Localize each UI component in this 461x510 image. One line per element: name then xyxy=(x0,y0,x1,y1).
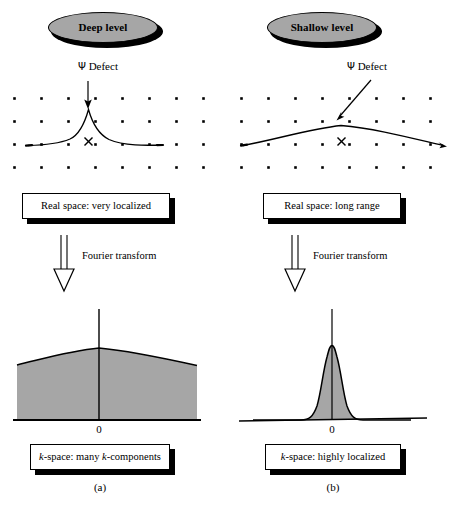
psi-glyph: Ψ xyxy=(347,61,355,72)
panel-shallow-level: Shallow level Ψ Defect xyxy=(231,0,461,510)
deep-fourier-arrow-icon xyxy=(47,235,87,293)
shallow-lattice-dots xyxy=(240,97,432,169)
shallow-real-space-box: Real space: long range xyxy=(263,193,401,219)
deep-lattice-dots xyxy=(13,97,205,169)
subcaption-a: (a) xyxy=(80,481,120,493)
deep-lattice-diagram xyxy=(0,78,230,178)
shallow-kspace-plot xyxy=(231,305,461,435)
deep-real-space-box-label: Real space: very localized xyxy=(22,193,170,219)
deep-kspace-zero-label: 0 xyxy=(89,423,109,435)
kspace-text-mid: -space: highly localized xyxy=(285,451,385,462)
kspace-text-mid: -space: many xyxy=(44,451,102,462)
deep-real-space-box: Real space: very localized xyxy=(22,193,170,219)
figure-root: Deep level Ψ Defect xyxy=(0,0,461,510)
shallow-kspace-box: k-space: highly localized xyxy=(265,444,401,470)
shallow-level-badge: Shallow level xyxy=(267,12,379,45)
shallow-defect-label: Ψ Defect xyxy=(347,60,387,72)
panel-deep-level: Deep level Ψ Defect xyxy=(0,0,230,510)
deep-kspace-box: k-space: many k-components xyxy=(30,444,170,470)
defect-text: Defect xyxy=(86,60,118,72)
defect-text: Defect xyxy=(355,60,387,72)
shallow-level-badge-label: Shallow level xyxy=(267,12,377,43)
kspace-text-suffix: -components xyxy=(107,451,161,462)
deep-wavefunction-curve xyxy=(28,110,162,146)
shallow-fourier-arrow-icon xyxy=(278,235,318,293)
shallow-defect-arrow xyxy=(337,80,372,121)
shallow-real-space-box-label: Real space: long range xyxy=(263,193,401,219)
subcaption-b: (b) xyxy=(313,481,353,493)
deep-level-badge-label: Deep level xyxy=(48,12,158,43)
shallow-defect-cross xyxy=(338,138,346,146)
shallow-fourier-transform-label: Fourier transform xyxy=(313,250,387,261)
shallow-curve-left-tail xyxy=(241,145,247,146)
shallow-kspace-box-label: k-space: highly localized xyxy=(265,444,401,470)
shallow-lattice-diagram xyxy=(231,78,461,178)
deep-defect-cross xyxy=(85,138,93,146)
deep-fourier-transform-label: Fourier transform xyxy=(82,250,156,261)
deep-defect-label: Ψ Defect xyxy=(78,60,118,72)
shallow-kspace-zero-label: 0 xyxy=(322,423,342,435)
deep-kspace-plot xyxy=(0,305,230,435)
psi-glyph: Ψ xyxy=(78,61,86,72)
deep-level-badge: Deep level xyxy=(48,12,160,45)
deep-kspace-box-label: k-space: many k-components xyxy=(30,444,170,470)
deep-defect-arrow xyxy=(84,81,92,109)
